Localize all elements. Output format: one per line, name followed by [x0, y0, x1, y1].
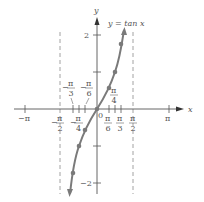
origin-label: 0 [98, 111, 103, 120]
svg-text:π: π [68, 79, 73, 88]
x-tick-label-neg-pi-over-4: − π 4 [70, 114, 83, 133]
equation-label: y = tan x [107, 19, 145, 28]
svg-text:π: π [86, 79, 91, 88]
y-tick-label-neg2: −2 [80, 179, 92, 188]
x-tick-label-pi-over-6: π 6 [104, 114, 112, 133]
x-tick-label-pi-over-4: π 4 [110, 86, 118, 105]
svg-text:π: π [76, 114, 81, 123]
x-tick-label-pi-over-3: π 3 [116, 114, 124, 133]
x-tick-label-neg-pi-over-3: − π 3 [62, 79, 75, 104]
x-tick-label-neg-pi-over-6: − π 6 [80, 79, 93, 104]
svg-text:4: 4 [76, 124, 81, 133]
svg-text:π: π [57, 114, 62, 123]
x-tick-label-neg-pi: −π [18, 114, 30, 123]
y-axis-arrow-icon [95, 17, 100, 25]
svg-text:6: 6 [106, 124, 111, 133]
x-axis-label: x [188, 105, 193, 114]
svg-text:π: π [111, 86, 116, 95]
y-tick-label-2: 2 [84, 31, 89, 40]
svg-text:3: 3 [69, 89, 74, 98]
svg-text:2: 2 [131, 124, 136, 133]
y-axis-label: y [93, 6, 99, 15]
svg-text:2: 2 [58, 124, 63, 133]
x-tick-label-pi-over-2: π 2 [129, 114, 137, 133]
svg-text:6: 6 [87, 89, 92, 98]
tan-graph: x y 2 −2 y = tan x −π π 0 [0, 0, 204, 202]
curve-arrow-bottom-icon [67, 189, 73, 197]
curve-arrow-top-icon [121, 27, 127, 35]
svg-text:4: 4 [112, 96, 117, 105]
svg-text:π: π [130, 114, 135, 123]
svg-text:π: π [105, 114, 110, 123]
x-axis-arrow-icon [176, 107, 184, 112]
svg-text:3: 3 [118, 124, 123, 133]
x-tick-label-neg-pi-over-2: − π 2 [51, 114, 64, 133]
svg-text:π: π [117, 114, 122, 123]
x-tick-label-pi: π [165, 114, 170, 123]
